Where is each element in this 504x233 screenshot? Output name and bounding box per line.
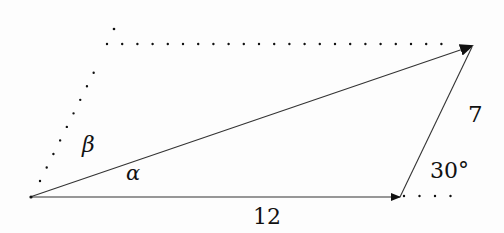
bottom-length-label: 12 xyxy=(253,206,281,228)
side-length-label: 7 xyxy=(468,103,483,126)
angle-beta-label: β xyxy=(82,134,95,156)
angle-alpha-label: α xyxy=(126,163,140,184)
guide-corner-dot xyxy=(113,28,116,31)
vector-diagram: β α 12 7 30° xyxy=(0,0,504,233)
origin-point xyxy=(29,195,32,198)
slanted-left-guide xyxy=(40,60,100,181)
resultant-vector xyxy=(30,46,472,197)
diagram-svg xyxy=(0,0,504,233)
angle-30-label: 30° xyxy=(430,160,469,182)
